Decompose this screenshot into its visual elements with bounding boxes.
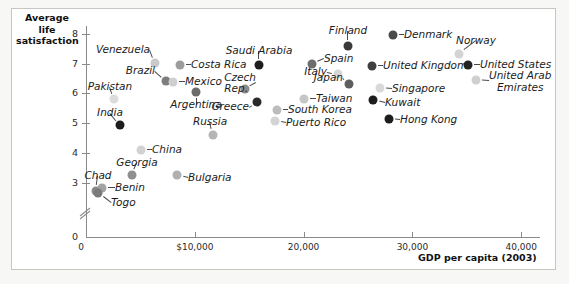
y-axis-tick — [82, 123, 90, 124]
data-point-label: United ArabEmirates — [489, 69, 551, 93]
data-point[interactable] — [255, 61, 264, 70]
x-axis-tick-label: $10,000 — [176, 242, 213, 252]
data-point[interactable] — [173, 171, 182, 180]
point-leader-line — [249, 105, 252, 108]
point-leader-line — [317, 58, 324, 62]
data-point[interactable] — [273, 106, 282, 115]
data-point-label: South Korea — [288, 104, 352, 116]
data-point-label: Hong Kong — [400, 114, 457, 126]
x-axis-tick-label: 40,000 — [505, 242, 537, 252]
data-point[interactable] — [110, 95, 119, 104]
y-axis-tick-label: 0 — [64, 231, 78, 242]
y-axis-tick — [82, 183, 90, 184]
data-point[interactable] — [176, 61, 185, 70]
data-point[interactable] — [300, 95, 309, 104]
x-axis-tick-label: 0 — [78, 242, 84, 252]
data-point[interactable] — [345, 80, 354, 89]
data-point[interactable] — [472, 76, 481, 85]
y-axis-tick — [82, 34, 90, 35]
data-point-label: United Kingdom — [383, 60, 467, 72]
y-axis-tick-label: 3 — [64, 177, 78, 188]
y-axis-tick — [82, 93, 90, 94]
scatter-plot-area: 03456780$10,00020,00030,00040,000Venezue… — [0, 0, 569, 284]
x-axis-tick — [412, 232, 413, 238]
data-point[interactable] — [368, 62, 377, 71]
data-point[interactable] — [169, 78, 178, 87]
data-point-label: Japan — [314, 72, 343, 84]
data-point[interactable] — [271, 117, 280, 126]
data-point-label: Saudi Arabia — [226, 45, 293, 57]
data-point-label: Costa Rica — [191, 59, 247, 71]
x-axis-tick — [195, 232, 196, 238]
point-leader-line — [108, 187, 115, 188]
data-point[interactable] — [369, 96, 378, 105]
x-axis-tick — [304, 232, 305, 238]
data-point[interactable] — [376, 84, 385, 93]
data-point-label: Spain — [324, 53, 353, 65]
data-point-label: Venezuela — [96, 44, 150, 56]
data-point[interactable] — [455, 50, 464, 59]
data-point-label: Kuwait — [385, 97, 420, 109]
data-point[interactable] — [389, 31, 398, 40]
y-axis-tick-label: 4 — [64, 147, 78, 158]
y-axis-tick-label: 6 — [64, 87, 78, 98]
data-point-label: Mexico — [185, 76, 222, 88]
data-point-label: Denmark — [404, 29, 452, 41]
point-leader-line — [154, 71, 161, 78]
y-axis-tick-label: 5 — [64, 117, 78, 128]
data-point-label: Benin — [115, 182, 145, 194]
data-point-label: Chad — [84, 170, 111, 182]
data-point-label: Norway — [456, 35, 496, 47]
y-axis-tick-label: 8 — [64, 28, 78, 39]
data-point[interactable] — [137, 146, 146, 155]
data-point-label: CzechRep. — [224, 72, 256, 94]
data-point[interactable] — [94, 189, 103, 198]
y-axis-tick-label: 7 — [64, 58, 78, 69]
chart-root: Average life satisfaction GDP per capita… — [0, 0, 569, 284]
data-point-label: Finland — [329, 25, 367, 37]
data-point[interactable] — [192, 88, 201, 97]
point-leader-line — [482, 79, 489, 81]
data-point[interactable] — [344, 42, 353, 51]
data-point[interactable] — [128, 171, 137, 180]
data-point[interactable] — [253, 98, 262, 107]
y-axis-break-icon — [79, 206, 93, 220]
data-point-label: Singapore — [392, 83, 445, 95]
x-axis-tick-label: 30,000 — [397, 242, 429, 252]
data-point-label: India — [97, 107, 123, 119]
x-axis-line — [86, 237, 540, 238]
data-point[interactable] — [464, 61, 473, 70]
data-point-label: Pakistan — [88, 81, 132, 93]
y-axis-tick — [82, 64, 90, 65]
x-axis-tick-label: 20,000 — [288, 242, 320, 252]
data-point-label: Georgia — [116, 157, 157, 169]
data-point-label: China — [152, 144, 182, 156]
data-point[interactable] — [209, 131, 218, 140]
data-point-label: Togo — [111, 197, 136, 209]
data-point-label: Puerto Rico — [286, 117, 346, 129]
data-point-label: Greece — [211, 101, 249, 113]
data-point-label: Russia — [193, 116, 227, 128]
data-point[interactable] — [116, 121, 125, 130]
data-point-label: Bulgaria — [188, 172, 232, 184]
x-axis-tick — [521, 232, 522, 238]
data-point[interactable] — [385, 115, 394, 124]
y-axis-tick — [82, 153, 90, 154]
data-point-label: Brazil — [126, 65, 155, 77]
